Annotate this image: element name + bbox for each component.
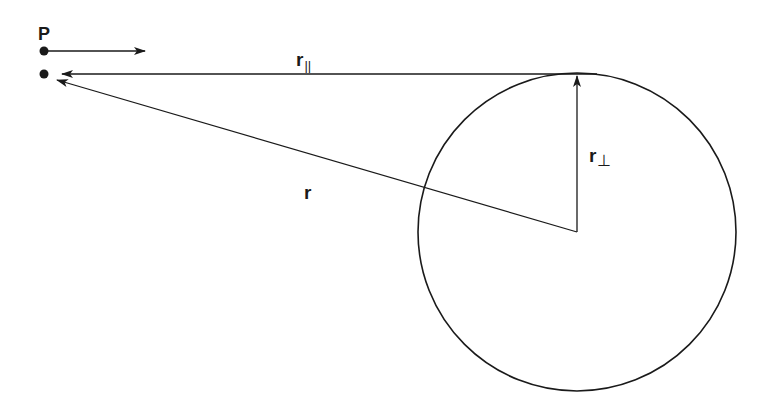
point-p-lower-dot — [40, 70, 49, 79]
r-parallel-sub: || — [304, 58, 311, 73]
r-parallel-label: r|| — [296, 50, 311, 69]
diagram-svg — [0, 0, 772, 402]
r-perp-sub: ⊥ — [597, 152, 611, 169]
r-parallel-main: r — [296, 49, 303, 70]
point-p-upper-dot — [40, 47, 49, 56]
r-arrow — [57, 80, 577, 232]
r-perp-label: r⊥ — [589, 146, 611, 165]
r-label: r — [304, 183, 311, 202]
point-p-label: P — [38, 25, 50, 43]
diagram-canvas: P r|| r⊥ r — [0, 0, 772, 402]
r-perp-main: r — [589, 145, 596, 166]
